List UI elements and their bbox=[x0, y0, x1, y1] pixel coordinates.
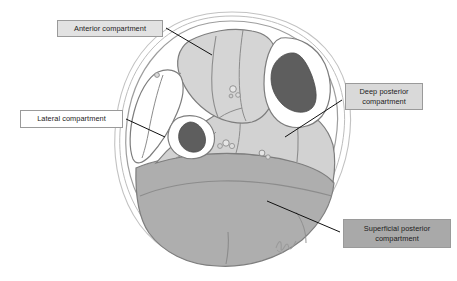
label-anterior-compartment[interactable]: Anterior compartment bbox=[57, 20, 163, 37]
deep-peroneal-nerve bbox=[229, 94, 233, 98]
saphenous-vein bbox=[155, 73, 160, 78]
anterior-tibial-vessel bbox=[230, 86, 237, 93]
label-deep-posterior-compartment[interactable]: Deep posterior compartment bbox=[345, 83, 423, 110]
posterior-tibial-artery bbox=[223, 140, 229, 146]
peroneal-artery bbox=[259, 150, 265, 156]
label-superficial-posterior-compartment[interactable]: Superficial posterior compartment bbox=[343, 219, 451, 248]
anterior-tibial-vein bbox=[236, 93, 241, 98]
superficial-posterior-fill bbox=[136, 153, 334, 266]
compartment-diagram-figure: Anterior compartment Lateral compartment… bbox=[0, 0, 457, 281]
peroneal-vein bbox=[266, 155, 270, 159]
tibial-nerve bbox=[218, 144, 223, 149]
fibula-region bbox=[168, 116, 214, 159]
label-lateral-compartment[interactable]: Lateral compartment bbox=[20, 110, 123, 128]
superficial-posterior-compartment-region bbox=[136, 153, 334, 266]
posterior-tibial-vein bbox=[229, 143, 234, 148]
